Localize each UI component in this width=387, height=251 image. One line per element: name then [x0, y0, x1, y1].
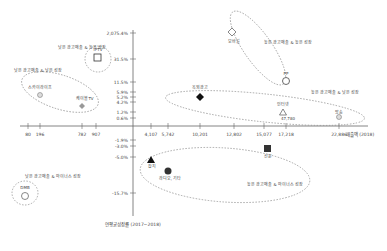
svg-text:-3.0%: -3.0%	[115, 144, 129, 149]
svg-text:10,201: 10,201	[192, 132, 208, 137]
pp-circle-marker	[283, 78, 290, 85]
iptv-square-marker	[94, 54, 101, 61]
svg-text:DMB: DMB	[20, 185, 30, 190]
svg-text:모바일: 모바일	[228, 38, 240, 44]
svg-text:신문: 신문	[264, 153, 272, 159]
svg-text:782: 782	[78, 132, 87, 137]
svg-text:낮은 광고매출 & 높은 성장: 낮은 광고매출 & 높은 성장	[58, 44, 106, 50]
svg-text:-15.7%: -15.7%	[112, 191, 129, 196]
internet-triangle-marker	[280, 109, 287, 115]
svg-text:높은 광고매출 & 높은 성장: 높은 광고매출 & 높은 성장	[264, 39, 312, 45]
radio-circle-marker	[165, 168, 172, 175]
svg-text:80: 80	[25, 132, 31, 137]
svg-text:인터넷: 인터넷	[277, 101, 289, 107]
svg-text:방송: 방송	[335, 109, 343, 115]
outdoor-diamond-marker	[196, 93, 204, 101]
svg-text:0.6%: 0.6%	[117, 116, 129, 121]
svg-text:196: 196	[36, 132, 45, 137]
svg-text:12,802: 12,802	[226, 132, 242, 137]
svg-text:15,077: 15,077	[256, 132, 272, 137]
y-axis-label: 연평균성장률 (2017~2018)	[105, 221, 161, 228]
svg-text:PP: PP	[284, 71, 289, 76]
svg-text:4,107: 4,107	[145, 132, 158, 137]
y-tick-group: 2,075.4%31.5%11.5%5.9%5.2%4.2%1.2%0.6%-1…	[107, 31, 136, 196]
dmb-circle-marker	[22, 193, 29, 200]
svg-text:낮은 광고매출 & 낮은 성장: 낮은 광고매출 & 낮은 성장	[14, 67, 62, 73]
magazine-triangle-marker	[147, 156, 155, 163]
svg-text:옥외광고: 옥외광고	[192, 84, 208, 90]
broadcast-marker	[337, 115, 342, 120]
svg-text:4.2%: 4.2%	[117, 100, 129, 105]
svg-text:2,075.4%: 2,075.4%	[107, 31, 129, 36]
svg-text:907: 907	[92, 132, 101, 137]
cable-diamond-marker	[79, 103, 85, 109]
svg-text:잡지: 잡지	[148, 163, 156, 169]
svg-text:낮은 광고매출 & 마이너스 성장: 낮은 광고매출 & 마이너스 성장	[25, 173, 81, 179]
svg-text:-1.9%: -1.9%	[115, 138, 129, 143]
svg-text:17,218: 17,218	[278, 132, 294, 137]
svg-text:22,886: 22,886	[331, 132, 347, 137]
svg-text:스카이라이프: 스카이라이프	[28, 84, 52, 90]
svg-text:라디오, 기타: 라디오, 기타	[159, 175, 182, 181]
svg-text:5,742: 5,742	[162, 132, 175, 137]
svg-text:케이블TV: 케이블TV	[76, 95, 93, 101]
svg-text:47,780: 47,780	[281, 116, 295, 121]
skylife-marker	[38, 93, 43, 98]
svg-text:11.5%: 11.5%	[114, 80, 129, 85]
newspaper-square-marker	[264, 145, 271, 152]
point-labels: IPTV 스카이라이프 케이블TV 옥외광고 모바일 PP 인터넷 47,780…	[20, 38, 343, 190]
svg-text:31.5%: 31.5%	[114, 57, 129, 62]
svg-text:-5.0%: -5.0%	[115, 155, 129, 160]
svg-text:1.2%: 1.2%	[117, 110, 129, 115]
group-labels: 낮은 광고매출 & 높은 성장 낮은 광고매출 & 낮은 성장 높은 광고매출 …	[14, 39, 359, 187]
svg-text:높은 광고매출 & 마이너스 성장: 높은 광고매출 & 마이너스 성장	[247, 181, 303, 187]
x-tick-group: 801967829074,1075,74210,20112,80215,0771…	[25, 123, 347, 137]
svg-text:높은 광고매출 & 낮은 성장: 높은 광고매출 & 낮은 성장	[311, 89, 359, 95]
x-axis-label: 매출액 (2018)	[346, 131, 375, 138]
scatter-chart: 801967829074,1075,74210,20112,80215,0771…	[0, 0, 387, 251]
